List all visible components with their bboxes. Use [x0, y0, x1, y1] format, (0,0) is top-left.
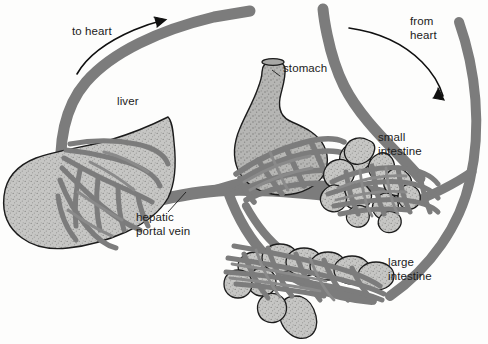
label-hepatic-portal-vein: hepatic portal vein: [136, 211, 190, 238]
large-intestine-organ: [224, 244, 394, 338]
label-stomach: stomach: [283, 62, 327, 76]
label-liver: liver: [117, 95, 139, 109]
stomach-cardia-opening: [262, 59, 284, 66]
hepatic-portal-system-diagram: to heart from heart liver stomach small …: [0, 0, 488, 344]
to-heart-arrow-head: [154, 17, 166, 27]
label-small-intestine: small intestine: [378, 131, 422, 158]
label-large-intestine: large intestine: [388, 256, 432, 283]
label-to-heart: to heart: [72, 25, 112, 39]
label-from-heart: from heart: [410, 15, 437, 42]
diagram-canvas: [0, 0, 488, 344]
